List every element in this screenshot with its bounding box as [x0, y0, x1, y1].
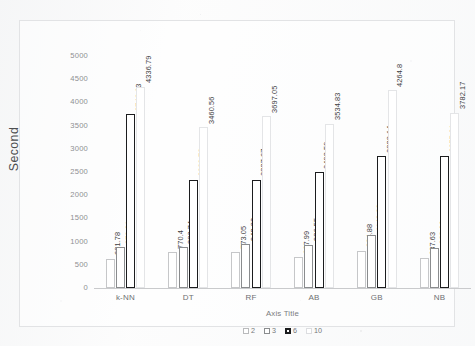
legend-item[interactable]: 10 [306, 326, 322, 335]
bar [388, 90, 397, 288]
bar [262, 116, 271, 288]
bar-value-label: 4264.8 [395, 63, 404, 86]
legend-swatch [243, 328, 249, 334]
y-axis-tick-label: 4000 [42, 98, 88, 106]
legend-swatch [306, 328, 312, 334]
bar [420, 258, 429, 288]
legend-item[interactable]: 2 [243, 326, 255, 335]
bar [136, 87, 145, 288]
y-axis-tick-label: 1000 [42, 238, 88, 246]
bar-value-label: 3697.05 [270, 86, 279, 113]
legend-swatch [264, 328, 270, 334]
y-axis-tick-label: 3000 [42, 145, 88, 153]
legend-label: 10 [314, 326, 322, 335]
bar [440, 156, 449, 288]
bar-group: 770.4882.742329.763460.56 [157, 56, 220, 288]
legend-item[interactable]: 6 [285, 326, 297, 335]
legend-label: 3 [272, 326, 276, 335]
bar-group: 637.63868.262855.213782.17 [408, 56, 471, 288]
x-axis-line [94, 288, 471, 289]
bar [241, 244, 250, 288]
y-axis-tick-label: 0 [42, 284, 88, 292]
legend-label: 2 [251, 326, 255, 335]
bar-value-label: 3782.17 [458, 82, 467, 109]
bar [450, 113, 459, 288]
bar [179, 247, 188, 288]
x-axis-category-label: DT [157, 293, 220, 302]
bar [294, 257, 303, 288]
bar-value-label: 770.4 [176, 230, 185, 249]
x-axis-category-label: AB [283, 293, 346, 302]
chart-legend: 23610 [94, 326, 471, 335]
x-axis-category-label: RF [220, 293, 283, 302]
bar-group: 667.99936.552493.593534.83 [283, 56, 346, 288]
bar [252, 180, 261, 288]
bar [377, 156, 386, 288]
x-axis-category-label: NB [408, 293, 471, 302]
bar-group: 631.78879.013746.634336.79 [94, 56, 157, 288]
x-axis-category-label: k-NN [94, 293, 157, 302]
bar [199, 127, 208, 288]
y-axis-title: Second [7, 89, 21, 209]
bar [168, 252, 177, 288]
y-axis-tick-label: 500 [42, 261, 88, 269]
legend-swatch [285, 328, 291, 334]
bar [315, 172, 324, 288]
scan-artifact [200, 14, 201, 15]
bar [106, 259, 115, 288]
bar-value-label: 3534.83 [333, 93, 342, 120]
bar [367, 235, 376, 288]
bar-value-label: 4336.79 [144, 56, 153, 83]
bar-group: 804.881148.992838.144264.8 [345, 56, 408, 288]
x-axis-category-label: GB [345, 293, 408, 302]
bar-group: 773.05943.822337.673697.05 [220, 56, 283, 288]
bar [430, 248, 439, 288]
bar [325, 124, 334, 288]
y-axis-tick-label: 3500 [42, 122, 88, 130]
bar [357, 251, 366, 288]
bar [116, 247, 125, 288]
bar-value-label: 3460.56 [207, 97, 216, 124]
plot-area: 631.78879.013746.634336.79770.4882.74232… [94, 56, 471, 288]
x-axis-title: Axis Title [94, 309, 471, 318]
bar [231, 252, 240, 288]
y-axis-tick-label: 2000 [42, 191, 88, 199]
y-axis-tick-label: 4500 [42, 75, 88, 83]
y-axis-tick-label: 1500 [42, 214, 88, 222]
legend-item[interactable]: 3 [264, 326, 276, 335]
chart-frame: Second 500045004000350030002500200015001… [19, 20, 455, 327]
bar [126, 114, 135, 288]
y-axis-tick-label: 2500 [42, 168, 88, 176]
legend-label: 6 [293, 326, 297, 335]
bar [189, 180, 198, 288]
y-axis-tick-label: 5000 [42, 52, 88, 60]
bar [304, 245, 313, 288]
